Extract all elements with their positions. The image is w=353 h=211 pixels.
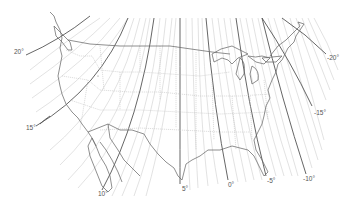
vancouver-island xyxy=(54,26,72,50)
map-point-marker xyxy=(97,75,98,76)
isogonic-label-0: 0° xyxy=(228,182,234,189)
isogonic-label-neg15: -15° xyxy=(314,110,326,117)
isogonic-label-neg10: -10° xyxy=(303,176,315,183)
baja-california xyxy=(88,138,112,192)
isogonic-label-neg5: -5° xyxy=(267,178,275,185)
isogonic-20 xyxy=(26,16,90,55)
isogonic-label-10: 10° xyxy=(98,191,108,198)
isogonic-15 xyxy=(36,18,128,126)
isogonic-label-20: 20° xyxy=(14,49,24,56)
isogonic-0 xyxy=(206,18,228,180)
isogonic-label-15: 15° xyxy=(26,125,36,132)
coastline-and-borders xyxy=(50,12,304,192)
isogonic-label-neg20: -20° xyxy=(327,55,339,62)
declination-map: 20° 15° 10° 5° 0° -5° -10° -15° -20° xyxy=(0,0,353,211)
isogonic-label-5: 5° xyxy=(182,186,188,193)
west-coast xyxy=(50,12,96,146)
map-canvas xyxy=(0,0,353,211)
isogonic-neg5 xyxy=(236,18,266,176)
mexico-border xyxy=(88,124,140,176)
